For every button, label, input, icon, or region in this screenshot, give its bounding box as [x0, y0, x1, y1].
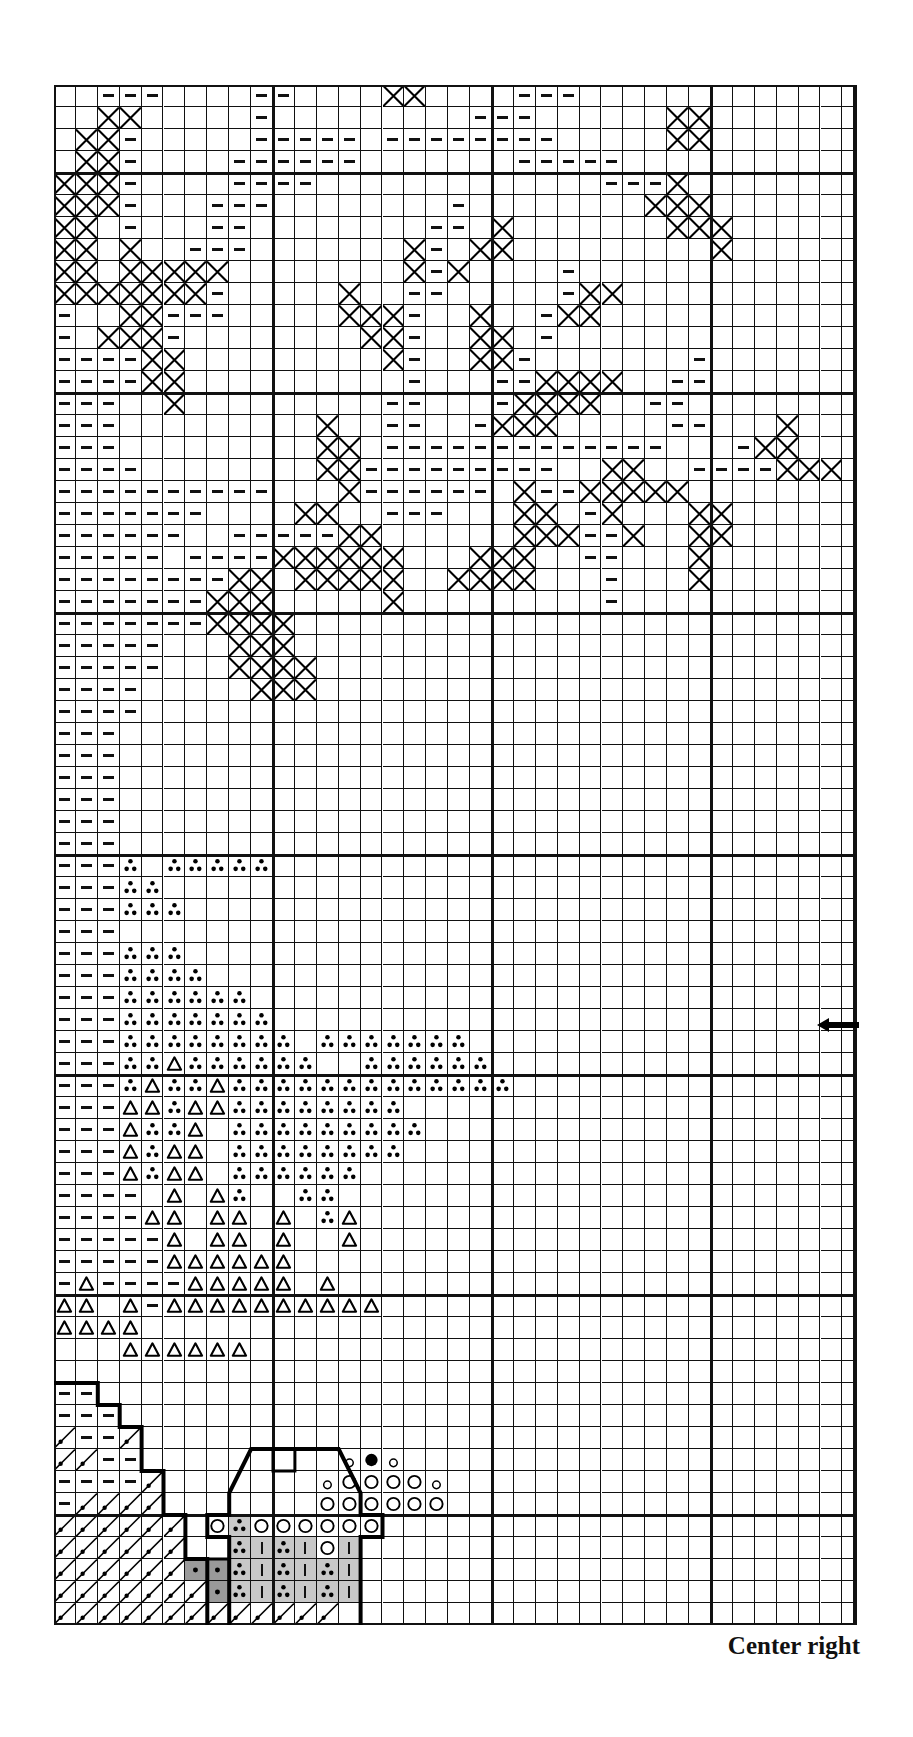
stitch-cell-empty: [580, 855, 602, 877]
stitch-cell-empty: [821, 1031, 843, 1053]
stitch-cell-empty: [580, 1537, 602, 1559]
stitch-cell-cross-stitch: [339, 283, 361, 305]
stitch-cell-empty: [602, 1251, 624, 1273]
stitch-cell-empty: [536, 789, 558, 811]
stitch-cell-empty: [470, 1031, 492, 1053]
stitch-cell-empty: [623, 547, 645, 569]
stitch-cell-empty: [361, 1009, 383, 1031]
stitch-cell-triangle: [164, 1053, 186, 1075]
stitch-cell-empty: [799, 679, 821, 701]
stitch-cell-dash-stitch: [426, 129, 448, 151]
stitch-cell-empty: [777, 1097, 799, 1119]
stitch-cell-empty: [361, 855, 383, 877]
stitch-cell-empty: [733, 855, 755, 877]
stitch-cell-empty: [251, 811, 273, 833]
stitch-cell-three-dots-light-gray: [229, 1581, 251, 1603]
stitch-cell-empty: [514, 1493, 536, 1515]
stitch-cell-empty: [404, 1009, 426, 1031]
stitch-cell-dash-stitch: [98, 437, 120, 459]
stitch-cell-three-dots: [229, 1185, 251, 1207]
stitch-cell-cross-stitch: [142, 371, 164, 393]
stitch-cell-empty: [383, 1339, 405, 1361]
stitch-cell-empty: [492, 899, 514, 921]
stitch-cell-cross-stitch: [98, 327, 120, 349]
stitch-cell-empty: [207, 1493, 229, 1515]
stitch-cell-triangle: [76, 1317, 98, 1339]
stitch-cell-three-dots: [383, 1097, 405, 1119]
stitch-cell-empty: [623, 503, 645, 525]
stitch-cell-empty: [295, 481, 317, 503]
stitch-cell-diagonal-with-dot: [120, 1559, 142, 1581]
stitch-cell-dash-stitch: [142, 1273, 164, 1295]
stitch-cell-three-dots: [185, 1053, 207, 1075]
stitch-cell-dash-stitch: [120, 349, 142, 371]
stitch-cell-triangle: [273, 1273, 295, 1295]
stitch-cell-empty: [492, 855, 514, 877]
stitch-cell-empty: [799, 415, 821, 437]
stitch-cell-empty: [426, 415, 448, 437]
stitch-cell-cross-stitch: [404, 261, 426, 283]
stitch-cell-empty: [623, 987, 645, 1009]
stitch-cell-dash-stitch: [98, 481, 120, 503]
stitch-cell-empty: [492, 305, 514, 327]
stitch-cell-empty: [207, 1317, 229, 1339]
stitch-cell-empty: [361, 635, 383, 657]
stitch-cell-empty: [777, 1339, 799, 1361]
stitch-cell-triangle: [229, 1251, 251, 1273]
stitch-cell-empty: [623, 1339, 645, 1361]
stitch-cell-empty: [602, 1207, 624, 1229]
stitch-cell-empty: [426, 1339, 448, 1361]
stitch-cell-three-dots: [404, 1075, 426, 1097]
stitch-cell-dash-stitch: [54, 503, 76, 525]
stitch-cell-empty: [273, 261, 295, 283]
stitch-cell-empty: [580, 195, 602, 217]
stitch-cell-empty: [514, 1009, 536, 1031]
stitch-cell-empty: [755, 855, 777, 877]
stitch-cell-empty: [295, 305, 317, 327]
stitch-cell-empty: [426, 195, 448, 217]
stitch-cell-cross-stitch: [514, 415, 536, 437]
stitch-cell-empty: [536, 1383, 558, 1405]
stitch-cell-empty: [536, 921, 558, 943]
stitch-cell-empty: [821, 921, 843, 943]
stitch-cell-empty: [536, 239, 558, 261]
stitch-cell-dash-stitch: [76, 1141, 98, 1163]
stitch-cell-cross-stitch: [514, 393, 536, 415]
stitch-cell-empty: [645, 1273, 667, 1295]
stitch-cell-empty: [623, 1031, 645, 1053]
stitch-cell-empty: [580, 613, 602, 635]
stitch-cell-empty: [689, 1537, 711, 1559]
stitch-cell-diagonal-with-dot: [54, 1449, 76, 1471]
stitch-cell-empty: [361, 283, 383, 305]
stitch-cell-empty: [426, 1361, 448, 1383]
stitch-cell-empty: [339, 1405, 361, 1427]
stitch-cell-dash-stitch: [229, 173, 251, 195]
stitch-cell-empty: [164, 701, 186, 723]
stitch-cell-empty: [514, 1559, 536, 1581]
stitch-cell-empty: [558, 459, 580, 481]
stitch-cell-small-circle: [317, 1471, 339, 1493]
stitch-cell-empty: [492, 679, 514, 701]
stitch-cell-empty: [295, 1361, 317, 1383]
stitch-cell-empty: [426, 525, 448, 547]
stitch-cell-empty: [777, 1053, 799, 1075]
stitch-cell-empty: [777, 679, 799, 701]
stitch-cell-empty: [536, 657, 558, 679]
stitch-cell-empty: [98, 1361, 120, 1383]
stitch-cell-empty: [755, 723, 777, 745]
stitch-cell-empty: [821, 415, 843, 437]
stitch-cell-empty: [164, 1493, 186, 1515]
stitch-cell-empty: [558, 701, 580, 723]
stitch-cell-empty: [251, 1317, 273, 1339]
stitch-cell-cross-stitch: [317, 569, 339, 591]
stitch-cell-dash-stitch: [98, 1471, 120, 1493]
stitch-cell-empty: [470, 1251, 492, 1273]
stitch-cell-empty: [295, 107, 317, 129]
stitch-cell-three-dots: [273, 1141, 295, 1163]
stitch-cell-empty: [185, 1449, 207, 1471]
stitch-cell-empty: [755, 1053, 777, 1075]
stitch-cell-diagonal-with-dot: [98, 1559, 120, 1581]
stitch-cell-empty: [645, 1053, 667, 1075]
stitch-cell-dash-stitch: [164, 591, 186, 613]
stitch-cell-empty: [536, 591, 558, 613]
